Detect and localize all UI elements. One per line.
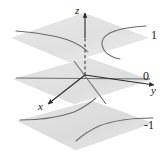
level-label-bottom: -1 [144, 119, 154, 131]
plane-top-surface [12, 13, 148, 62]
level-label-middle: 0 [143, 70, 149, 82]
figure-canvas [0, 0, 167, 156]
level-label-top: 1 [151, 29, 157, 41]
y-axis-label: y [151, 85, 156, 96]
x-axis-label: x [38, 101, 43, 112]
plane-top [12, 13, 148, 62]
level-curves-figure: z y x 1 0 -1 [0, 0, 167, 156]
z-axis-label: z [75, 5, 79, 16]
